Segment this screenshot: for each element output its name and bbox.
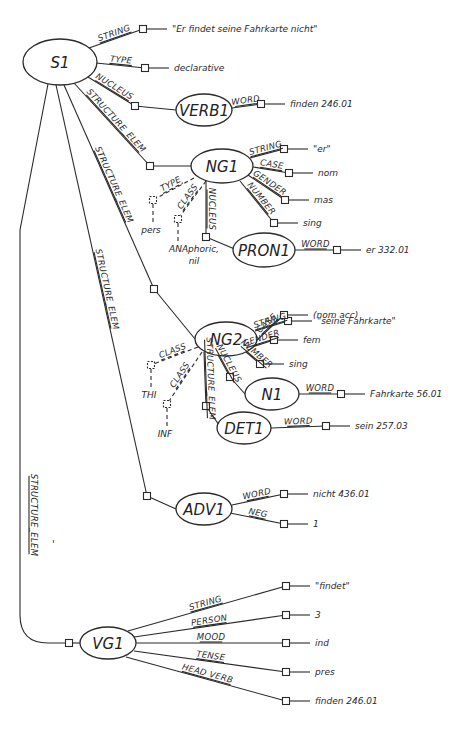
feature-label: WORD [284, 415, 313, 426]
slot-box [203, 234, 210, 241]
feature-label: CLASS [167, 360, 191, 389]
node-label: NG1 [206, 158, 238, 176]
node-label: DET1 [224, 420, 264, 438]
feature-value: declarative [174, 63, 225, 73]
feature-value: sing [303, 218, 322, 228]
slot-box [283, 583, 290, 590]
feature-edge [74, 83, 150, 166]
feature-s1-structure-elem [20, 84, 80, 643]
slot-box [283, 640, 290, 647]
node-verb1: VERB1 [176, 94, 232, 126]
node-adv1: ADV1 [176, 493, 232, 525]
slot-box [175, 216, 182, 223]
feature-value: finden 246.01 [315, 696, 378, 706]
slot-box [283, 669, 290, 676]
node-n1: N1 [245, 378, 299, 410]
feature-value: THI [142, 390, 157, 400]
feature-s1-structure-elem [56, 85, 176, 509]
feature-value: 3 [315, 610, 321, 620]
feature-label: CLASS [157, 341, 187, 361]
target-edge [135, 106, 176, 110]
feature-label: TYPE [159, 174, 183, 193]
feature-edge [126, 657, 286, 701]
slot-box [150, 197, 157, 204]
node-ng1: NG1 [191, 149, 253, 183]
feature-value: pres [314, 667, 335, 677]
feature-value: pers [140, 225, 161, 235]
feature-value: 1 [313, 519, 319, 529]
slot-box [147, 163, 154, 170]
annotation-mark: ' [52, 539, 55, 550]
node-label: VG1 [92, 635, 123, 653]
feature-value: ind [315, 638, 329, 648]
target-edge [154, 289, 195, 339]
feature-label: NUCLEUS [207, 188, 217, 231]
slot-box [164, 401, 171, 408]
feature-value: er 332.01 [366, 245, 410, 255]
feature-value: sing [289, 359, 308, 369]
slot-box [334, 247, 341, 254]
slot-box [66, 640, 73, 647]
feature-value: "Er findet seine Fahrkarte nicht" [172, 24, 317, 34]
feature-value: nom [318, 168, 338, 178]
feature-label: STRUCTURE_ELEM [85, 87, 148, 155]
slot-box [283, 698, 290, 705]
node-det1: DET1 [217, 412, 271, 444]
slot-box [282, 197, 289, 204]
slot-box [323, 423, 330, 430]
node-label: N1 [262, 386, 283, 404]
node-label: PRON1 [238, 242, 290, 260]
slot-box [144, 493, 151, 500]
feature-s1-type [96, 63, 169, 68]
slot-box [140, 26, 147, 33]
slot-box [142, 65, 149, 72]
feature-value: mas [314, 195, 333, 205]
feature-value: finden 246.01 [290, 99, 353, 109]
feature-label: STRING [96, 22, 131, 43]
node-s1: S1 [23, 39, 97, 85]
feature-value: fem [303, 335, 321, 345]
slot-box [132, 103, 139, 110]
node-label: ADV1 [182, 501, 225, 519]
feature-value: nil [189, 256, 200, 266]
slot-box [281, 491, 288, 498]
feature-det1-word [271, 426, 350, 428]
slot-box [148, 362, 155, 369]
feature-label: STRUCTURE_ELEM [93, 145, 136, 225]
feature-adv1-neg [230, 513, 308, 524]
feature-label: STRUCTURE_ELEM [29, 474, 39, 557]
slot-box [271, 220, 278, 227]
feature-value: "er" [313, 144, 331, 154]
feature-value: sein 257.03 [355, 421, 408, 431]
feature-value: Fahrkarte 56.01 [370, 389, 442, 399]
feature-value: nicht 436.01 [313, 489, 370, 499]
labels-layer: STRING"Er findet seine Fahrkarte nicht"T… [29, 22, 442, 706]
feature-value: ANAphoric, [168, 244, 219, 254]
slot-box [151, 286, 158, 293]
target-edge [147, 496, 176, 509]
slot-box [281, 521, 288, 528]
slot-box [338, 391, 345, 398]
feature-label: WORD [306, 383, 335, 393]
node-pron1: PRON1 [233, 233, 295, 267]
feature-edge [20, 84, 69, 643]
feature-value: INF [158, 429, 173, 439]
slot-box [283, 612, 290, 619]
feature-value: (nom acc) [313, 310, 358, 320]
feature-structure-diagram: S1VERB1NG1PRON1NG2N1DET1ADV1VG1 STRING"E… [0, 0, 470, 731]
feature-label: MOOD [197, 632, 226, 642]
slot-box [286, 170, 293, 177]
feature-label: WORD [301, 239, 330, 249]
node-vg1: VG1 [80, 627, 136, 659]
feature-value: "findet" [315, 581, 350, 591]
node-label: VERB1 [179, 102, 229, 120]
node-label: S1 [50, 54, 69, 72]
